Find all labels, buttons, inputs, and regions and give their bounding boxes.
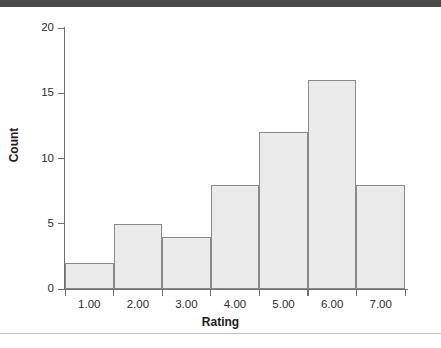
y-axis-tick-mark [58,28,64,29]
histogram-bar [114,224,163,289]
histogram-bar [65,263,114,289]
page-bottom-rule [0,333,441,334]
x-axis-tick-mark [356,290,357,296]
histogram-bar [356,185,405,289]
x-axis-tick-mark [259,290,260,296]
histogram-bar [259,132,308,289]
y-axis-tick-label: 0 [14,283,54,295]
x-axis-tick-mark [113,290,114,296]
y-axis-tick-mark [58,289,64,290]
x-axis-tick-mark [65,290,66,296]
histogram-bar [308,80,357,289]
x-axis-tick-label: 7.00 [351,299,411,311]
y-axis-tick-mark [58,223,64,224]
x-axis-tick-mark [162,290,163,296]
y-axis-tick-label: 20 [14,22,54,34]
y-axis-tick-label: 15 [14,87,54,99]
y-axis-tick-mark [58,158,64,159]
x-axis-tick-mark [210,290,211,296]
histogram-bar [162,237,211,289]
x-axis-tick-mark [307,290,308,296]
histogram-figure: 05101520 1.002.003.004.005.006.007.00 Co… [0,7,441,333]
y-axis-tick-label: 5 [14,218,54,230]
x-axis-tick-mark [405,290,406,296]
x-axis-title: Rating [0,316,441,328]
histogram-bar [211,185,260,289]
page-top-band [0,0,441,7]
y-axis-tick-mark [58,93,64,94]
y-axis-title: Count [8,115,20,175]
